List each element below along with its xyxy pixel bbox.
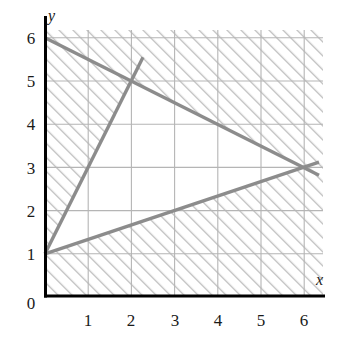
tick-label-origin: 0 <box>22 295 40 312</box>
y-tick-label-5: 5 <box>22 73 40 90</box>
x-tick-label-1: 1 <box>79 312 97 329</box>
coordinate-plane-svg <box>0 0 344 355</box>
graph-figure: y x 0 1 2 3 4 5 6 1 2 3 4 5 6 <box>0 0 344 355</box>
x-tick-label-6: 6 <box>295 312 313 329</box>
y-tick-label-2: 2 <box>22 203 40 220</box>
y-axis-label: y <box>48 8 55 24</box>
x-tick-label-3: 3 <box>166 312 184 329</box>
y-tick-label-6: 6 <box>22 30 40 47</box>
y-tick-label-1: 1 <box>22 246 40 263</box>
x-tick-label-5: 5 <box>252 312 270 329</box>
x-tick-label-2: 2 <box>122 312 140 329</box>
y-tick-label-3: 3 <box>22 160 40 177</box>
hatched-region <box>45 30 323 297</box>
x-tick-label-4: 4 <box>209 312 227 329</box>
x-axis-label: x <box>316 272 323 288</box>
y-tick-label-4: 4 <box>22 116 40 133</box>
